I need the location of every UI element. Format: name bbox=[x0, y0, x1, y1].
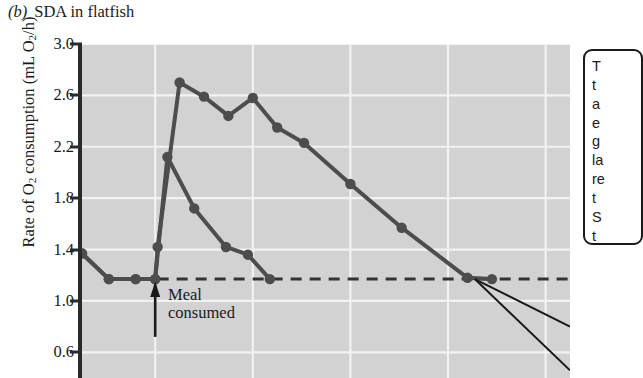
chart-svg bbox=[82, 44, 570, 378]
y-axis-tick-mark bbox=[70, 197, 82, 200]
y-axis-tick-mark bbox=[70, 299, 82, 302]
y-axis-tick-mark bbox=[70, 43, 82, 46]
data-point bbox=[162, 152, 172, 162]
data-point bbox=[223, 111, 233, 121]
data-point bbox=[130, 274, 140, 284]
data-point bbox=[462, 273, 472, 283]
meal-annotation: Meal consumed bbox=[168, 286, 235, 323]
data-point bbox=[104, 274, 114, 284]
y-tick-label: 1.8 bbox=[34, 190, 74, 207]
data-point bbox=[248, 93, 258, 103]
y-axis-tick-mark bbox=[70, 248, 82, 251]
callout-line: t bbox=[592, 76, 641, 95]
y-tick-label: 0.6 bbox=[34, 344, 74, 361]
meal-line-1: Meal bbox=[168, 286, 235, 304]
callout-box: TtaeglaretStfc bbox=[583, 49, 643, 245]
series-line-1 bbox=[82, 157, 270, 279]
y-tick-label: 1.4 bbox=[34, 241, 74, 258]
callout-line: re bbox=[592, 170, 641, 189]
data-point bbox=[189, 203, 199, 213]
callout-line: la bbox=[592, 151, 641, 170]
data-point bbox=[487, 274, 497, 284]
data-point bbox=[221, 242, 231, 252]
y-tick-label: 2.2 bbox=[34, 139, 74, 156]
plot-canvas bbox=[82, 44, 570, 378]
callout-line: t bbox=[592, 227, 641, 245]
callout-line: T bbox=[592, 57, 641, 76]
data-point bbox=[243, 249, 253, 259]
data-point bbox=[272, 122, 282, 132]
data-point bbox=[396, 223, 406, 233]
callout-line: e bbox=[592, 114, 641, 133]
callout-line: g bbox=[592, 132, 641, 151]
y-tick-label: 1.0 bbox=[34, 293, 74, 310]
y-axis-tick-mark bbox=[70, 351, 82, 354]
y-axis-tick-labels: 3.02.62.21.81.41.00.6 bbox=[32, 0, 74, 378]
y-axis-tick-mark bbox=[70, 145, 82, 148]
y-axis-tick-mark bbox=[70, 94, 82, 97]
y-tick-label: 3.0 bbox=[34, 36, 74, 53]
callout-line: a bbox=[592, 95, 641, 114]
data-point bbox=[265, 274, 275, 284]
callout-leader-line-top bbox=[475, 279, 570, 327]
callout-line: t bbox=[592, 189, 641, 208]
callout-leader-line-bottom bbox=[475, 279, 570, 370]
data-point bbox=[299, 138, 309, 148]
meal-arrow-head bbox=[150, 282, 160, 297]
meal-line-2: consumed bbox=[168, 304, 235, 322]
data-point bbox=[345, 179, 355, 189]
y-tick-label: 2.6 bbox=[34, 87, 74, 104]
data-point bbox=[174, 77, 184, 87]
callout-line: S bbox=[592, 208, 641, 227]
plot-area bbox=[82, 44, 570, 378]
data-point bbox=[199, 91, 209, 101]
